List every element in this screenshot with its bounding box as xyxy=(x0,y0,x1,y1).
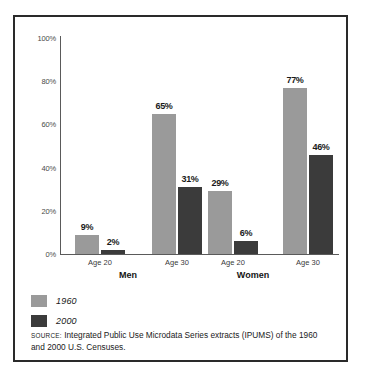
x-axis-line xyxy=(60,254,339,255)
bar xyxy=(101,250,125,254)
y-tick-label: 0% xyxy=(22,250,56,259)
bar-value-label: 65% xyxy=(155,101,172,111)
bar xyxy=(309,155,333,254)
bar xyxy=(283,88,307,254)
bar xyxy=(208,191,232,254)
bar-value-label: 9% xyxy=(81,222,93,232)
y-tick-label: 40% xyxy=(22,163,56,172)
bar-value-label: 29% xyxy=(211,178,228,188)
legend-item: 2000 xyxy=(31,312,77,329)
bar-value-label: 31% xyxy=(181,174,198,184)
bar xyxy=(234,241,258,254)
legend-swatch xyxy=(31,315,47,327)
chart-legend: 19602000 xyxy=(31,292,77,332)
y-tick-label: 80% xyxy=(22,77,56,86)
bar-value-label: 46% xyxy=(312,142,329,152)
bar-value-label: 6% xyxy=(240,228,252,238)
x-tick-label: Age 20 xyxy=(88,258,112,267)
legend-item: 1960 xyxy=(31,292,77,309)
y-tick-label: 60% xyxy=(22,120,56,129)
bar xyxy=(75,235,99,254)
y-tick-label: 100% xyxy=(22,34,56,43)
y-tick-label: 20% xyxy=(22,206,56,215)
source-kicker: source: xyxy=(31,332,62,339)
bar-value-label: 77% xyxy=(286,75,303,85)
bar xyxy=(178,187,202,254)
legend-swatch xyxy=(31,295,47,307)
source-note: source: Integrated Public Use Microdata … xyxy=(31,330,331,353)
bar xyxy=(152,114,176,254)
x-tick-label: Age 30 xyxy=(296,258,320,267)
x-tick-label: Age 20 xyxy=(221,258,245,267)
legend-label: 1960 xyxy=(56,296,77,306)
group-label: Women xyxy=(237,270,269,280)
legend-label: 2000 xyxy=(56,316,77,326)
bar-value-label: 2% xyxy=(107,237,119,247)
source-text: Integrated Public Use Microdata Series e… xyxy=(31,330,317,352)
group-label: Men xyxy=(119,270,137,280)
chart-figure: 100%80%60%40%20%0% Age 20Age 30Age 20Age… xyxy=(0,0,365,378)
x-tick-label: Age 30 xyxy=(165,258,189,267)
